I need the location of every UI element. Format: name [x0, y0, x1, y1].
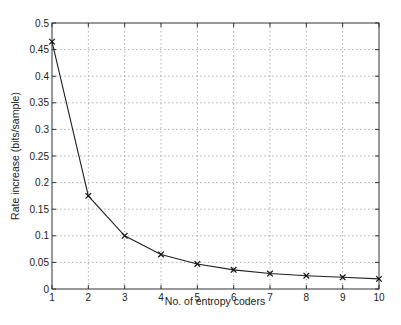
y-tick-label: 0.05 [30, 257, 50, 268]
data-series-line [52, 42, 379, 279]
x-tick-label: 8 [304, 292, 310, 303]
y-tick-label: 0.15 [30, 204, 50, 215]
y-tick-label: 0.25 [30, 151, 50, 162]
x-tick-label: 2 [86, 292, 92, 303]
y-tick-label: 0.1 [35, 230, 49, 241]
x-tick-label: 4 [158, 292, 164, 303]
x-tick-label: 10 [373, 292, 385, 303]
x-tick-label: 7 [267, 292, 273, 303]
y-tick-label: 0.2 [35, 177, 49, 188]
y-tick-label: 0 [43, 284, 49, 295]
y-axis-label: Rate increase (bits/sample) [9, 92, 21, 220]
x-axis-label: No. of entropy coders [165, 295, 265, 307]
y-tick-label: 0.45 [30, 44, 50, 55]
y-tick-label: 0.5 [35, 18, 49, 29]
y-tick-label: 0.35 [30, 97, 50, 108]
grid-lines [52, 23, 379, 289]
x-tick-label: 9 [340, 292, 346, 303]
y-tick-label: 0.4 [35, 71, 49, 82]
x-tick-label: 1 [49, 292, 55, 303]
y-tick-labels: 00.050.10.150.20.250.30.350.40.450.5 [30, 18, 50, 295]
data-markers [49, 39, 382, 282]
x-tick-label: 3 [122, 292, 128, 303]
y-tick-label: 0.3 [35, 124, 49, 135]
line-chart: 12345678910 00.050.10.150.20.250.30.350.… [0, 0, 401, 325]
